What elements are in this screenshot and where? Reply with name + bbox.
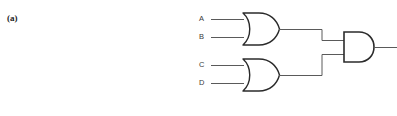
logic-circuit-figure: (a) A B C D bbox=[0, 0, 397, 116]
or-gate-bottom-body bbox=[243, 59, 280, 91]
or-gate-top-body bbox=[243, 13, 280, 45]
interconnect-wires bbox=[279, 30, 345, 76]
wire-top-or-to-and bbox=[279, 30, 345, 41]
or-gate-top bbox=[243, 13, 280, 45]
and-gate-output bbox=[344, 32, 374, 62]
circuit-diagram-canvas bbox=[0, 0, 397, 116]
or-gate-bottom bbox=[243, 59, 280, 91]
input-wires bbox=[211, 20, 244, 84]
and-gate-body bbox=[344, 32, 374, 62]
wire-bottom-or-to-and bbox=[279, 55, 345, 76]
